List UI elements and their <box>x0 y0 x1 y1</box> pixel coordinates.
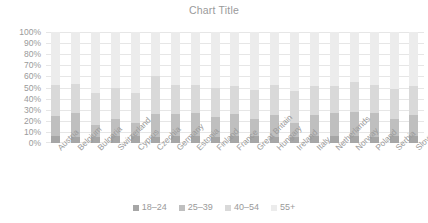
bar-segment[interactable] <box>350 82 359 112</box>
legend-swatch-icon <box>225 205 231 211</box>
bar-segment[interactable] <box>171 32 180 85</box>
bar-segment[interactable] <box>191 32 200 85</box>
bar-segment[interactable] <box>409 32 418 86</box>
bar-segment[interactable] <box>91 93 100 125</box>
bar-segment[interactable] <box>51 85 60 116</box>
y-axis-tick-label: 70% <box>24 61 41 70</box>
bar-segment[interactable] <box>310 32 319 86</box>
y-axis-tick-label: 100% <box>19 28 41 37</box>
y-axis-tick-label: 40% <box>24 94 41 103</box>
bar-slot <box>46 32 66 143</box>
bar-slot <box>305 32 325 143</box>
bar-segment[interactable] <box>409 86 418 115</box>
legend-item[interactable]: 25–39 <box>179 203 213 212</box>
x-axis-tick-label: Czechia <box>155 146 161 152</box>
legend-label: 25–39 <box>188 203 213 212</box>
y-axis-tick-label: 50% <box>24 83 41 92</box>
bar-segment[interactable] <box>131 93 140 123</box>
x-axis-tick-label: Slovenia <box>414 146 420 152</box>
bar-segment[interactable] <box>131 32 140 93</box>
y-axis-tick-label: 30% <box>24 105 41 114</box>
x-axis-tick-label: Germany <box>175 146 181 152</box>
plot-area <box>46 32 424 143</box>
y-axis-tick-label: 80% <box>24 50 41 59</box>
x-axis-tick-label: Bulgaria <box>96 146 102 152</box>
legend-label: 40–54 <box>234 203 259 212</box>
bar-segment[interactable] <box>151 32 160 76</box>
bar-segment[interactable] <box>71 84 80 113</box>
legend-item[interactable]: 40–54 <box>225 203 259 212</box>
x-axis-tick-label: Finland <box>215 146 221 152</box>
bar-segment[interactable] <box>310 86 319 115</box>
bar-slot <box>404 32 424 143</box>
stacked-bar[interactable] <box>409 32 418 143</box>
bar-segment[interactable] <box>290 32 299 91</box>
bar-segment[interactable] <box>250 32 259 90</box>
bar-segment[interactable] <box>350 32 359 82</box>
stacked-bar[interactable] <box>51 32 60 143</box>
bar-segment[interactable] <box>330 113 339 136</box>
bar-segment[interactable] <box>230 86 239 114</box>
y-axis-tick-label: 60% <box>24 72 41 81</box>
bar-segment[interactable] <box>171 85 180 114</box>
x-axis: AustriaBelgiumBulgariaSwitzerlandCyprusC… <box>46 143 424 195</box>
x-axis-tick-label: Switzerland <box>116 146 122 152</box>
bar-segment[interactable] <box>370 85 379 113</box>
legend-item[interactable]: 55+ <box>271 203 295 212</box>
x-axis-tick-label: Estonia <box>195 146 201 152</box>
bar-segment[interactable] <box>51 116 60 136</box>
x-axis-tick-label: Belgium <box>76 146 82 152</box>
stacked-bar[interactable] <box>330 32 339 143</box>
bar-slot <box>145 32 165 143</box>
bar-segment[interactable] <box>390 89 399 119</box>
legend-swatch-icon <box>179 205 185 211</box>
x-axis-tick-label: Italy <box>315 146 321 152</box>
chart-container: Chart Title 0%10%20%30%40%50%60%70%80%90… <box>0 0 428 223</box>
bar-segment[interactable] <box>390 32 399 89</box>
bar-segment[interactable] <box>270 85 279 115</box>
y-axis-tick-label: 10% <box>24 128 41 137</box>
bar-segment[interactable] <box>250 90 259 119</box>
y-axis-tick-label: 90% <box>24 39 41 48</box>
x-axis-tick-label: Ireland <box>295 146 301 152</box>
bar-segment[interactable] <box>111 32 120 88</box>
bar-segment[interactable] <box>270 32 279 85</box>
bar-slot <box>324 32 344 143</box>
stacked-bar[interactable] <box>151 32 160 143</box>
y-axis-tick-label: 20% <box>24 117 41 126</box>
bar-slot <box>66 32 86 143</box>
y-axis: 0%10%20%30%40%50%60%70%80%90%100% <box>0 32 44 143</box>
bar-slot <box>245 32 265 143</box>
y-axis-tick-label: 0% <box>29 139 41 148</box>
x-axis-tick-label: France <box>235 146 241 152</box>
x-axis-tick-label: Austria <box>56 146 62 152</box>
bar-segment[interactable] <box>111 88 120 119</box>
x-axis-tick-label: Hungary <box>275 146 281 152</box>
legend-label: 18–24 <box>142 203 167 212</box>
legend-swatch-icon <box>271 205 277 211</box>
bar-segment[interactable] <box>211 32 220 88</box>
x-axis-tick-label: Norway <box>354 146 360 152</box>
bar-segment[interactable] <box>370 32 379 85</box>
bar-segment[interactable] <box>230 32 239 86</box>
bar-slot <box>384 32 404 143</box>
legend-label: 55+ <box>280 203 295 212</box>
x-axis-tick-label: Poland <box>374 146 380 152</box>
legend-swatch-icon <box>133 205 139 211</box>
chart-title: Chart Title <box>0 4 428 16</box>
bar-segment[interactable] <box>191 85 200 113</box>
x-axis-tick-label: Netherlands <box>334 146 340 152</box>
bar-segment[interactable] <box>330 32 339 86</box>
bar-segment[interactable] <box>211 88 220 118</box>
bar-segment[interactable] <box>51 32 60 85</box>
bar-slot <box>225 32 245 143</box>
x-axis-tick-label: Serbia <box>394 146 400 152</box>
x-axis-tick-label: Great Britain <box>255 146 261 152</box>
bar-segment[interactable] <box>71 32 80 84</box>
bar-series-group <box>46 32 424 143</box>
x-axis-tick-label: Cyprus <box>136 146 142 152</box>
bar-segment[interactable] <box>91 32 100 93</box>
bar-segment[interactable] <box>151 76 160 114</box>
legend-item[interactable]: 18–24 <box>133 203 167 212</box>
bar-segment[interactable] <box>330 86 339 113</box>
